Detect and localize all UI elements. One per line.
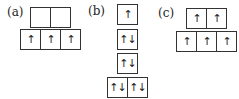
diagram-b-row-3: ↑↓ [117,53,138,74]
up-arrow-icon: ↑ [222,35,230,48]
up-arrow-icon: ↑ [212,12,220,25]
orbital-box: ↑ [40,29,61,50]
up-arrow-icon: ↑ [182,35,190,48]
orbital-box: ↑↓ [117,53,138,74]
orbital-box: ↑ [206,8,227,29]
up-arrow-icon: ↑ [123,8,131,21]
up-down-arrows-icon: ↑↓ [119,33,135,46]
orbital-box: ↑ [60,29,81,50]
orbital-box: ↑ [176,31,197,52]
orbital-box: ↑ [216,31,237,52]
diagram-c-bottom-row: ↑ ↑ ↑ [176,31,237,52]
orbital-box: ↑↓ [107,77,128,98]
diagram-b-row-1: ↑ [117,4,138,25]
label-b: (b) [88,4,105,18]
diagram-b-row-2: ↑↓ [117,29,138,50]
diagram-a-top-row [30,7,71,28]
orbital-box: ↑ [117,4,138,25]
up-down-arrows-icon: ↑↓ [119,57,135,70]
orbital-box [50,7,71,28]
orbital-box: ↑ [186,8,207,29]
up-down-arrows-icon: ↑↓ [109,81,125,94]
orbital-box: ↑↓ [127,77,148,98]
up-arrow-icon: ↑ [46,33,54,46]
label-a: (a) [7,5,24,19]
diagram-b-row-4: ↑↓ ↑↓ [107,77,148,98]
up-down-arrows-icon: ↑↓ [129,81,145,94]
diagram-c-top-row: ↑ ↑ [186,8,227,29]
up-arrow-icon: ↑ [26,33,34,46]
label-c: (c) [158,6,174,20]
diagram-a-bottom-row: ↑ ↑ ↑ [20,29,81,50]
orbital-box: ↑ [196,31,217,52]
up-arrow-icon: ↑ [66,33,74,46]
orbital-box [30,7,51,28]
orbital-box: ↑ [20,29,41,50]
up-arrow-icon: ↑ [192,12,200,25]
up-arrow-icon: ↑ [202,35,210,48]
orbital-box: ↑↓ [117,29,138,50]
